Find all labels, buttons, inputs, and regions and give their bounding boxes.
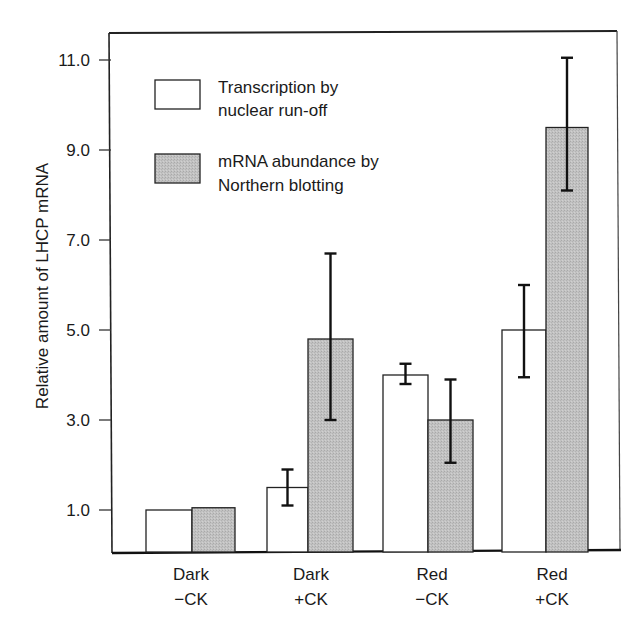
svg-text:−CK: −CK	[415, 590, 449, 609]
y-axis-title: Relative amount of LHCP mRNA	[33, 162, 52, 409]
legend-label-northern-line1: mRNA abundance by	[218, 152, 379, 171]
y-tick-label: 11.0	[58, 51, 90, 70]
svg-text:Red: Red	[416, 565, 447, 584]
svg-text:Dark: Dark	[173, 565, 209, 584]
bar-transcription-2	[383, 375, 428, 552]
svg-text:+CK: +CK	[535, 590, 569, 609]
legend-label-northern-line2: Northern blotting	[218, 176, 344, 195]
legend-label-transcription-line2: nuclear run-off	[218, 101, 328, 120]
bar-transcription-0	[146, 510, 192, 552]
y-tick-label: 7.0	[66, 231, 90, 250]
svg-text:−CK: −CK	[174, 590, 208, 609]
y-tick-label: 3.0	[66, 411, 90, 430]
bar-chart: 1.03.05.07.09.011.0 Dark−CKDark+CKRed−CK…	[0, 0, 643, 632]
y-axis-ticks: 1.03.05.07.09.011.0	[58, 51, 111, 520]
legend: Transcription by nuclear run-off mRNA ab…	[155, 78, 379, 195]
legend-swatch-transcription	[155, 80, 200, 109]
category-label: Red−CK	[415, 565, 449, 609]
y-tick-label: 1.0	[66, 501, 90, 520]
svg-text:Dark: Dark	[293, 565, 329, 584]
y-axis	[109, 33, 112, 553]
bar-northern-0	[192, 508, 235, 552]
category-label: Dark+CK	[293, 565, 329, 609]
y-tick-label: 5.0	[66, 321, 90, 340]
bars	[146, 128, 588, 553]
category-label: Red+CK	[535, 565, 569, 609]
legend-swatch-northern	[155, 154, 200, 183]
y-tick-label: 9.0	[66, 141, 90, 160]
svg-text:Red: Red	[536, 565, 567, 584]
legend-label-transcription-line1: Transcription by	[218, 78, 339, 97]
category-label: Dark−CK	[173, 565, 209, 609]
svg-text:+CK: +CK	[294, 590, 328, 609]
x-axis-category-labels: Dark−CKDark+CKRed−CKRed+CK	[173, 565, 569, 609]
